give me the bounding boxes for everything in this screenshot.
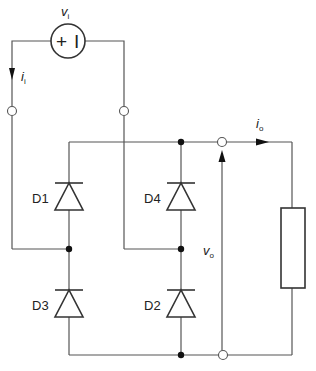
diode-d2-label: D2 xyxy=(144,299,161,312)
junction-dot-mid-right xyxy=(178,246,184,252)
circuit-schematic: + I xyxy=(0,0,316,371)
output-current-label: io xyxy=(256,117,263,133)
diode-d1-label: D1 xyxy=(32,192,49,205)
diode-d3-label: D3 xyxy=(32,299,49,312)
input-wires xyxy=(12,41,181,249)
input-current-arrow-icon xyxy=(9,68,15,80)
junction-dot-top xyxy=(178,139,184,145)
output-current-arrow-icon xyxy=(256,139,269,146)
output-terminal-bottom xyxy=(219,351,228,360)
input-terminal-right xyxy=(120,107,129,116)
junction-dot-mid-left xyxy=(66,246,72,252)
bridge-rectifier-diagram: + I xyxy=(0,0,316,371)
source-voltage-label: vi xyxy=(61,5,69,21)
input-terminal-left xyxy=(8,107,17,116)
input-current-label: ii xyxy=(21,70,26,86)
diode-d2-symbol xyxy=(167,290,195,317)
load-resistor-symbol xyxy=(281,208,305,288)
output-voltage-arrow-icon xyxy=(219,150,226,350)
junction-dot-bottom xyxy=(178,352,184,358)
output-terminal-top xyxy=(218,138,227,147)
source-plus-symbol: + xyxy=(56,31,67,52)
diode-d4-label: D4 xyxy=(144,192,161,205)
diode-d3-symbol xyxy=(55,290,83,317)
output-voltage-label: vo xyxy=(203,244,214,260)
diode-d4-symbol xyxy=(167,183,195,210)
diode-d1-symbol xyxy=(55,183,83,210)
ac-voltage-source: + I xyxy=(51,24,85,58)
source-minus-symbol: I xyxy=(74,31,79,52)
